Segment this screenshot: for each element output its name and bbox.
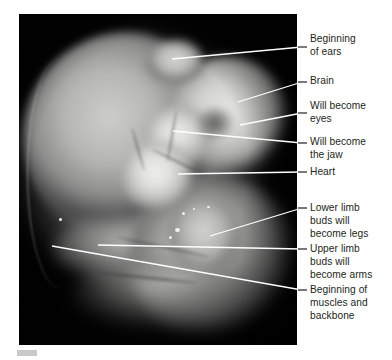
embryo-figure: Beginning of ears Brain Will become eyes… — [0, 0, 392, 360]
label-will-become-eyes: Will become eyes — [310, 100, 390, 126]
photo-content — [19, 14, 297, 345]
label-heart: Heart — [310, 166, 390, 179]
photo-speckle — [193, 208, 195, 210]
photo-speckle — [175, 228, 180, 232]
eye-vesicle-region — [197, 106, 233, 140]
photo-speckle — [182, 212, 185, 215]
photo-speckle — [207, 206, 210, 208]
embryo-photograph — [19, 14, 297, 345]
label-brain: Brain — [310, 75, 390, 88]
label-will-become-the-jaw: Will become the jaw — [310, 136, 390, 162]
label-lower-limb-buds: Lower limb buds will become legs — [310, 202, 390, 240]
label-beginning-of-muscles-and-backbone: Beginning of muscles and backbone — [310, 284, 390, 322]
photo-speckle — [169, 236, 172, 239]
label-upper-limb-buds: Upper limb buds will become arms — [310, 243, 390, 281]
limb-bud-region — [167, 192, 243, 278]
label-beginning-of-ears: Beginning of ears — [310, 33, 390, 59]
corner-tab-mark — [17, 350, 37, 356]
ear-bud-region — [146, 40, 204, 84]
